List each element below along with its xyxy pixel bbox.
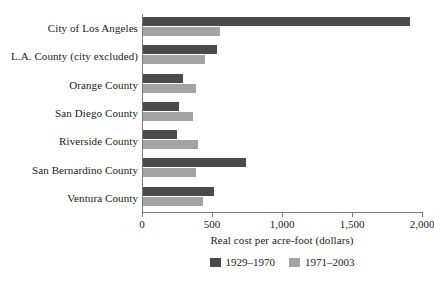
x-axis-tick xyxy=(422,212,423,217)
category-label: City of Los Angeles xyxy=(48,22,138,34)
chart-legend: 1929–19701971–2003 xyxy=(142,256,422,269)
legend-label: 1929–1970 xyxy=(226,256,276,269)
bar-series-1 xyxy=(143,17,410,26)
chart-category-row: Ventura County xyxy=(0,184,432,212)
x-axis-tick xyxy=(282,212,283,217)
bar-series-2 xyxy=(143,168,196,177)
bar-series-2 xyxy=(143,112,193,121)
x-axis-tick-label: 0 xyxy=(139,218,145,231)
legend-item: 1929–1970 xyxy=(210,256,276,269)
bar-group xyxy=(143,45,423,67)
category-label: Ventura County xyxy=(67,192,138,204)
category-label: Orange County xyxy=(69,79,138,91)
category-label: L.A. County (city excluded) xyxy=(11,50,138,62)
category-label: Riverside County xyxy=(59,135,138,147)
x-axis-tick-label: 500 xyxy=(204,218,221,231)
category-label: San Bernardino County xyxy=(32,164,138,176)
chart-category-row: City of Los Angeles xyxy=(0,14,432,42)
x-axis-title: Real cost per acre-foot (dollars) xyxy=(142,234,422,247)
bar-series-2 xyxy=(143,140,198,149)
bar-series-1 xyxy=(143,158,246,167)
x-axis-tick-labels: 05001,0001,5002,000 xyxy=(0,218,432,232)
chart-category-row: San Diego County xyxy=(0,99,432,127)
bar-series-1 xyxy=(143,130,177,139)
x-axis-tick xyxy=(142,212,143,217)
bar-series-1 xyxy=(143,187,214,196)
bar-series-1 xyxy=(143,74,183,83)
bar-group xyxy=(143,17,423,39)
bar-series-2 xyxy=(143,197,203,206)
chart-category-row: Riverside County xyxy=(0,127,432,155)
bar-series-2 xyxy=(143,27,220,36)
bar-series-1 xyxy=(143,102,179,111)
chart-category-row: Orange County xyxy=(0,71,432,99)
legend-swatch-icon xyxy=(289,258,300,267)
x-axis-tick-label: 1,000 xyxy=(270,218,295,231)
chart-category-rows: City of Los AngelesL.A. County (city exc… xyxy=(0,14,432,212)
bar-group xyxy=(143,74,423,96)
bar-series-1 xyxy=(143,45,217,54)
legend-item: 1971–2003 xyxy=(289,256,355,269)
bar-group xyxy=(143,130,423,152)
bar-group xyxy=(143,187,423,209)
legend-label: 1971–2003 xyxy=(305,256,355,269)
bar-series-2 xyxy=(143,55,205,64)
category-label: San Diego County xyxy=(55,107,138,119)
x-axis-tick-label: 1,500 xyxy=(340,218,365,231)
x-axis-tick xyxy=(212,212,213,217)
chart-category-row: L.A. County (city excluded) xyxy=(0,42,432,70)
bar-series-2 xyxy=(143,84,196,93)
x-axis-tick-label: 2,000 xyxy=(410,218,434,231)
chart-category-row: San Bernardino County xyxy=(0,155,432,183)
legend-swatch-icon xyxy=(210,258,221,267)
x-axis-tick xyxy=(352,212,353,217)
bar-group xyxy=(143,102,423,124)
bar-group xyxy=(143,158,423,180)
